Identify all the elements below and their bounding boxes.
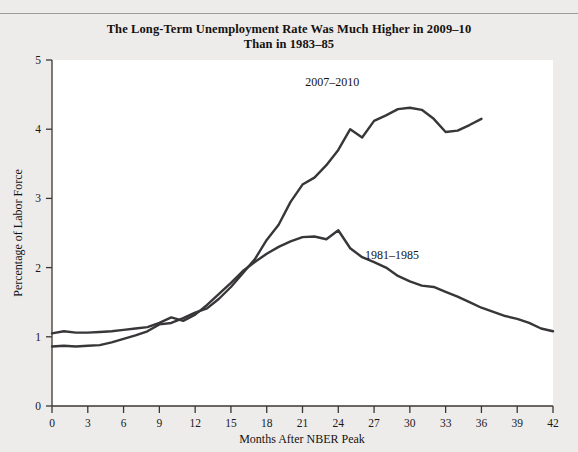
y-axis-tick-label: 3 (35, 192, 41, 204)
x-axis-tick-label: 12 (189, 417, 201, 429)
x-axis-tick-label: 21 (297, 417, 309, 429)
plot-background (52, 60, 553, 406)
y-axis-tick-label: 0 (35, 400, 41, 412)
x-axis-tick-label: 33 (440, 417, 452, 429)
x-axis-tick-label: 39 (511, 417, 523, 429)
x-axis-tick-label: 36 (476, 417, 488, 429)
x-axis-tick-label: 15 (225, 417, 237, 429)
y-axis-title: Percentage of Labor Force (11, 169, 25, 297)
y-axis-tick-label: 5 (35, 54, 41, 66)
x-axis-tick-label: 9 (156, 417, 162, 429)
chart-figure: The Long-Term Unemployment Rate Was Much… (0, 0, 578, 452)
x-axis-title: Months After NBER Peak (239, 432, 365, 446)
y-axis-tick-label: 2 (35, 262, 41, 274)
series-label-1981-1985: 1981–1985 (365, 248, 419, 262)
x-axis-tick-label: 27 (368, 417, 380, 429)
x-axis-tick-label: 3 (85, 417, 91, 429)
x-axis-tick-label: 18 (261, 417, 273, 429)
y-axis-tick-label: 1 (35, 331, 41, 343)
x-axis-tick-label: 30 (404, 417, 416, 429)
x-axis-tick-label: 0 (49, 417, 55, 429)
chart-plot-area: 01234503691215182124273033363942 2007–20… (0, 0, 578, 452)
x-axis-tick-label: 42 (547, 417, 559, 429)
series-label-2007-2010: 2007–2010 (305, 75, 359, 89)
y-axis-tick-label: 4 (35, 123, 41, 135)
x-axis-tick-label: 6 (121, 417, 127, 429)
x-axis-tick-label: 24 (333, 417, 345, 429)
